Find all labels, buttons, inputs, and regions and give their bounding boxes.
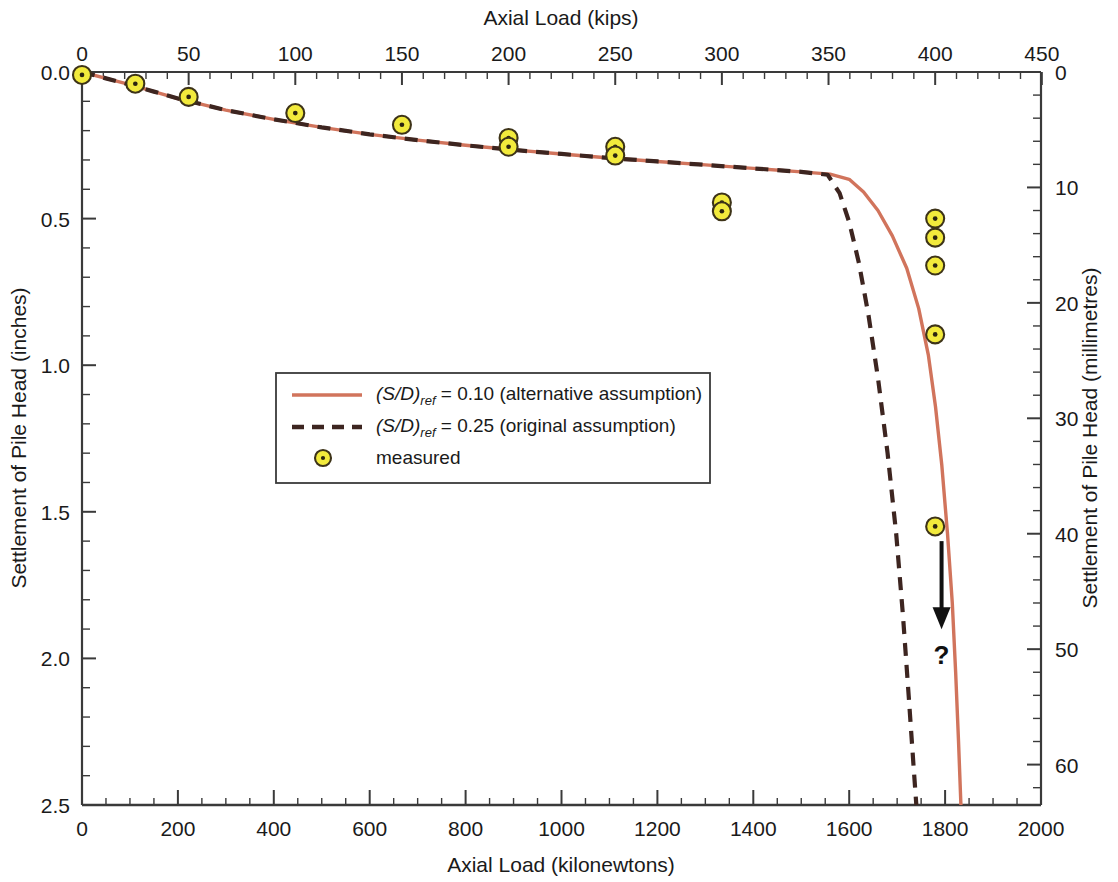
- bottom-tick-label: 0: [76, 817, 88, 840]
- measured-marker: [286, 104, 304, 122]
- measured-marker: [73, 66, 91, 84]
- right-tick-label: 20: [1055, 292, 1078, 315]
- top-tick-label: 200: [491, 42, 526, 65]
- measured-marker: [926, 210, 944, 228]
- bottom-tick-label: 1000: [538, 817, 585, 840]
- left-tick-label: 0.0: [41, 61, 70, 84]
- right-tick-label: 40: [1055, 523, 1078, 546]
- top-tick-label: 400: [918, 42, 953, 65]
- bottom-tick-label: 1200: [634, 817, 681, 840]
- bottom-tick-label: 1800: [922, 817, 969, 840]
- right-tick-label: 0: [1055, 61, 1067, 84]
- right-tick-label: 30: [1055, 407, 1078, 430]
- bottom-tick-label: 1600: [826, 817, 873, 840]
- measured-marker: [926, 257, 944, 275]
- right-axis-title: Settlement of Pile Head (millimetres): [1078, 268, 1101, 609]
- top-axis-title: Axial Load (kips): [483, 6, 638, 29]
- bottom-axis-title: Axial Load (kilonewtons): [447, 853, 675, 876]
- top-tick-label: 0: [76, 42, 88, 65]
- left-axis-title: Settlement of Pile Head (inches): [7, 287, 30, 588]
- right-tick-label: 50: [1055, 638, 1078, 661]
- bottom-tick-label: 600: [352, 817, 387, 840]
- bottom-tick-label: 1400: [730, 817, 777, 840]
- top-tick-label: 250: [598, 42, 633, 65]
- left-tick-label: 2.0: [41, 647, 70, 670]
- measured-marker: [713, 202, 731, 220]
- chart-figure: Axial Load (kips) Axial Load (kilonewton…: [0, 0, 1118, 882]
- right-tick-label: 10: [1055, 176, 1078, 199]
- left-tick-label: 1.5: [41, 501, 70, 524]
- left-tick-label: 2.5: [41, 794, 70, 817]
- top-tick-label: 100: [278, 42, 313, 65]
- measured-marker: [606, 147, 624, 165]
- top-tick-label: 350: [811, 42, 846, 65]
- bottom-tick-label: 200: [160, 817, 195, 840]
- measured-marker: [926, 325, 944, 343]
- measured-marker: [393, 116, 411, 134]
- measured-marker: [180, 88, 198, 106]
- legend-marker-swatch: [315, 450, 331, 466]
- bottom-tick-label: 800: [448, 817, 483, 840]
- measured-marker: [500, 138, 518, 156]
- top-tick-label: 300: [704, 42, 739, 65]
- chart-legend: (S/D)ref = 0.10 (alternative assumption)…: [276, 373, 710, 483]
- top-tick-label: 50: [177, 42, 200, 65]
- measured-marker: [926, 229, 944, 247]
- legend-label: measured: [376, 447, 461, 468]
- pile-load-settlement-chart: Axial Load (kips) Axial Load (kilonewton…: [0, 0, 1118, 882]
- annotation-question-mark: ?: [934, 640, 950, 670]
- left-tick-label: 0.5: [41, 208, 70, 231]
- bottom-tick-label: 2000: [1018, 817, 1065, 840]
- measured-marker: [126, 75, 144, 93]
- top-tick-label: 150: [384, 42, 419, 65]
- right-tick-label: 60: [1055, 754, 1078, 777]
- left-tick-label: 1.0: [41, 354, 70, 377]
- bottom-tick-label: 400: [256, 817, 291, 840]
- measured-marker: [926, 517, 944, 535]
